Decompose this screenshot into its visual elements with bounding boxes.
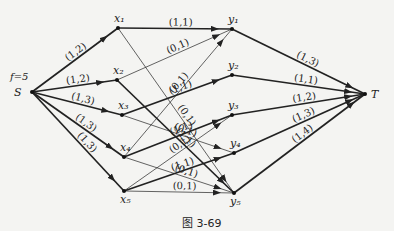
node-label: S <box>14 86 22 99</box>
edge-label: (1,1) <box>169 16 193 27</box>
node-T: T <box>363 88 380 101</box>
node-label: x₃ <box>118 99 129 112</box>
edge-line <box>32 92 124 191</box>
node-dot <box>30 90 34 94</box>
figure-caption: 图 3-69 <box>182 217 221 230</box>
node-label: x₁ <box>114 12 125 25</box>
edge-line <box>124 191 234 193</box>
node-dot <box>120 113 124 117</box>
node-label: y₂ <box>227 59 239 72</box>
node-label: y₃ <box>227 99 239 112</box>
node-y4: y₄ <box>229 137 241 155</box>
node-label: x₅ <box>120 193 131 206</box>
node-S: S <box>14 86 34 99</box>
node-label: y₁ <box>227 13 239 26</box>
node-dot <box>230 27 234 31</box>
diagram-canvas: (1,2)(1,2)(1,3)(1,3)(1,3)(1,1)(0,1)(0,1)… <box>0 0 394 231</box>
nodes-layer: Sx₁x₂x₃x₄x₅y₁y₂y₃y₄y₅T <box>14 12 380 208</box>
node-label: y₄ <box>229 137 241 150</box>
node-dot <box>232 151 236 155</box>
edge-line <box>117 29 232 80</box>
node-dot <box>115 78 119 82</box>
node-dot <box>116 26 120 30</box>
edge-x2-y1: (0,1) <box>117 29 232 80</box>
edge-label: (1,3) <box>70 90 96 107</box>
edge-S-x5: (1,3) <box>32 92 124 191</box>
edge-y2-T: (1,1) <box>232 72 365 94</box>
edge-label: (0,1) <box>173 180 197 191</box>
node-x2: x₂ <box>113 64 124 82</box>
node-x5: x₅ <box>120 189 131 206</box>
node-y5: y₅ <box>229 191 241 208</box>
node-dot <box>122 155 126 159</box>
node-dot <box>230 113 234 117</box>
node-y2: y₂ <box>227 59 239 77</box>
node-label: x₄ <box>120 141 131 154</box>
node-label: y₅ <box>229 195 241 208</box>
node-dot <box>230 73 234 77</box>
flow-value-label: f=5 <box>9 71 28 82</box>
node-dot <box>363 92 367 96</box>
edge-x1-y1: (1,1) <box>118 16 232 29</box>
node-label: T <box>371 88 380 101</box>
node-label: x₂ <box>113 64 124 77</box>
edge-line <box>118 28 232 29</box>
network-flow-diagram: (1,2)(1,2)(1,3)(1,3)(1,3)(1,1)(0,1)(0,1)… <box>0 0 394 231</box>
edge-x5-y5: (0,1) <box>124 180 234 193</box>
edges-layer: (1,2)(1,2)(1,3)(1,3)(1,3)(1,1)(0,1)(0,1)… <box>32 16 365 193</box>
